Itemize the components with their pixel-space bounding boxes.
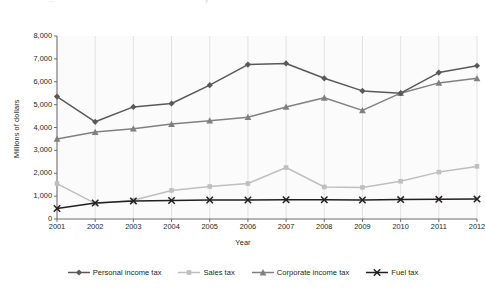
- data-point-marker-square: [55, 181, 60, 186]
- data-point-marker-square: [322, 185, 327, 190]
- data-point-marker-square: [207, 184, 212, 189]
- data-point-marker-square: [187, 270, 192, 275]
- data-point-marker-diamond: [76, 269, 82, 275]
- legend-label: Fuel tax: [391, 268, 418, 277]
- legend-swatch-triangle: [252, 268, 274, 277]
- legend-label: Sales tax: [203, 268, 234, 277]
- legend-swatch-x: [366, 268, 388, 277]
- data-point-marker-square: [246, 181, 251, 186]
- legend-swatch-diamond: [68, 268, 90, 277]
- tax-revenue-line-chart: ... y Millions of dollars Year 01,0002,0…: [0, 0, 486, 289]
- data-point-marker-square: [169, 188, 174, 193]
- legend-item-personal-income-tax[interactable]: Personal income tax: [68, 268, 162, 277]
- legend-label: Personal income tax: [93, 268, 162, 277]
- legend-item-corporate-income-tax[interactable]: Corporate income tax: [252, 268, 350, 277]
- legend-label: Corporate income tax: [277, 268, 350, 277]
- legend-item-fuel-tax[interactable]: Fuel tax: [366, 268, 418, 277]
- data-point-marker-square: [475, 164, 480, 169]
- data-point-marker-square: [398, 179, 403, 184]
- data-point-marker-square: [284, 165, 289, 170]
- plot-area: [0, 0, 486, 289]
- legend-swatch-square: [178, 268, 200, 277]
- data-point-marker-square: [360, 185, 365, 190]
- data-point-marker-square: [437, 170, 442, 175]
- legend-item-sales-tax[interactable]: Sales tax: [178, 268, 234, 277]
- chart-legend: Personal income taxSales taxCorporate in…: [0, 262, 486, 282]
